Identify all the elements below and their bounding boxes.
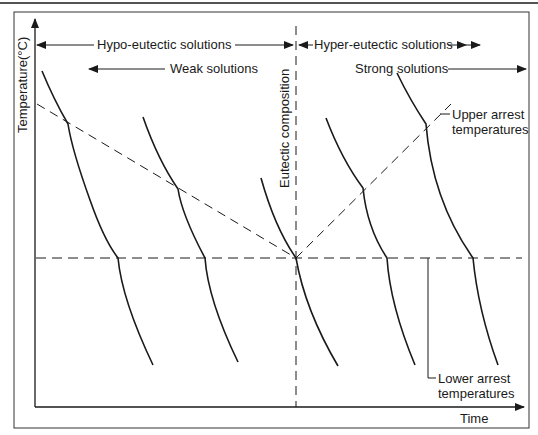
upper-arrest-label-line1: Upper arrest (452, 108, 524, 121)
upper-arrest-line-right (296, 104, 451, 258)
lower-arrest-label-line2: temperatures (438, 387, 515, 400)
cooling-curve-1 (42, 71, 153, 365)
strong-solutions-label: Strong solutions (355, 62, 448, 75)
lower-arrest-label-line1: Lower arrest (438, 372, 510, 385)
cooling-curve-2 (143, 117, 238, 362)
cooling-curves-diagram (0, 0, 538, 435)
frame (14, 12, 529, 428)
cooling-curve-4 (326, 118, 415, 365)
x-axis-label: Time (460, 412, 488, 425)
cooling-curves (42, 71, 498, 366)
cooling-curve-3 (261, 178, 338, 366)
y-axis-label: Temperature(°C) (16, 37, 29, 133)
lower-arrest-leader (428, 258, 436, 378)
eutectic-composition-label: Eutectic composition (278, 69, 291, 188)
upper-arrest-label-line2: temperatures (452, 123, 529, 136)
hyper-eutectic-label: Hyper-eutectic solutions (314, 38, 453, 51)
upper-arrest-line-left (37, 104, 296, 258)
weak-solutions-label: Weak solutions (170, 62, 258, 75)
hypo-eutectic-label: Hypo-eutectic solutions (97, 38, 231, 51)
